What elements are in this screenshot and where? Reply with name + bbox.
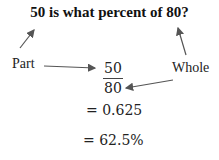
fraction-bar (103, 78, 123, 79)
fraction-numerator: 50 (104, 60, 122, 76)
step-decimal: = 0.625 (86, 102, 142, 118)
part-to-title-arrow (20, 30, 34, 48)
step-percent: = 62.5% (83, 132, 144, 148)
percent-diagram: 50 is what percent of 80? Part Whole 50 … (0, 0, 219, 160)
part-label: Part (12, 56, 35, 72)
fraction-denominator: 80 (104, 80, 122, 96)
whole-to-title-arrow (178, 28, 186, 55)
whole-label: Whole (172, 60, 209, 76)
part-to-numerator-arrow (44, 66, 95, 68)
whole-to-denominator-arrow (126, 80, 173, 88)
